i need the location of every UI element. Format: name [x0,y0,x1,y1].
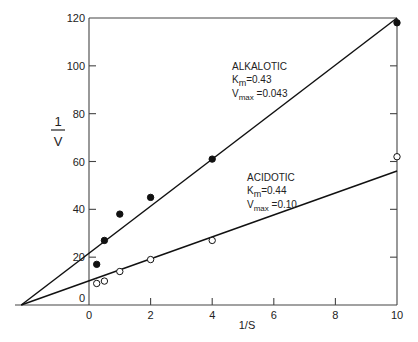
x-tick-label: 2 [148,309,154,321]
lineweaver-burk-chart: 0204060801001200246810 1 V 1/S ALKALOTIC… [0,0,418,342]
acidotic-km: Km=0.44 [247,185,287,199]
y-label-denominator: V [54,134,63,149]
y-tick-label: 0 [79,292,85,304]
acidotic-point [147,256,153,262]
data-points [94,20,401,287]
x-tick-label: 6 [271,309,277,321]
y-axis-label: 1 V [51,114,65,149]
x-tick-label: 8 [332,309,338,321]
acidotic-point [101,278,107,284]
acidotic-point [394,154,400,160]
x-tick-label: 4 [209,309,215,321]
acidotic-point [117,268,123,274]
acidotic-vmax: Vmax =0.10 [247,199,297,213]
y-label-numerator: 1 [54,114,61,129]
alkalotic-point [101,237,107,243]
acidotic-annotation: ACIDOTIC Km=0.44 Vmax =0.10 [247,172,297,213]
alkalotic-name: ALKALOTIC [232,61,287,72]
acidotic-point [209,237,215,243]
x-axis-label: 1/S [239,319,256,331]
alkalotic-vmax: Vmax =0.043 [232,88,288,102]
alkalotic-point [147,194,153,200]
alkalotic-annotation: ALKALOTIC Km=0.43 Vmax =0.043 [232,61,288,102]
acidotic-name: ACIDOTIC [247,172,295,183]
y-tick-label: 40 [73,203,85,215]
y-tick-label: 80 [73,108,85,120]
alkalotic-point [94,261,100,267]
y-tick-label: 60 [73,156,85,168]
alkalotic-km: Km=0.43 [232,74,272,88]
alkalotic-point [117,211,123,217]
x-tick-label: 10 [391,309,403,321]
y-tick-label: 100 [67,60,85,72]
alkalotic-point [394,20,400,26]
acidotic-fit-line [21,171,397,305]
acidotic-point [94,280,100,286]
alkalotic-point [209,156,215,162]
y-tick-label: 120 [67,12,85,24]
x-tick-label: 0 [86,309,92,321]
